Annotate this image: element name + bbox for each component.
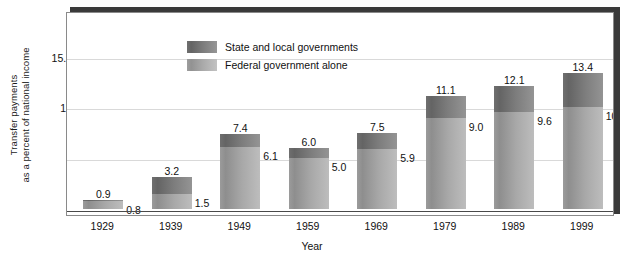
bar-segment-state-local[interactable] [152, 177, 192, 194]
bar-total-label: 11.1 [436, 84, 456, 96]
x-axis-title: Year [0, 240, 624, 252]
bar-federal-label: 0.8 [126, 204, 141, 216]
bar-segment-federal[interactable] [494, 112, 534, 209]
bar-segment-state-local[interactable] [494, 86, 534, 111]
bar-federal-label: 1.5 [195, 197, 210, 209]
bar-segment-state-local[interactable] [289, 148, 329, 158]
bar-total-label: 13.4 [573, 61, 593, 73]
bar-group[interactable] [494, 86, 534, 209]
y-axis-title: Transfer payments as a percent of nation… [8, 20, 30, 210]
bar-segment-federal[interactable] [220, 147, 260, 209]
bar-federal-label: 9.0 [469, 121, 484, 133]
legend-item[interactable]: State and local governments [187, 39, 358, 54]
plot-area: 0.90.83.21.57.46.16.05.07.55.911.19.012.… [66, 12, 614, 216]
bar-segment-federal[interactable] [152, 194, 192, 209]
legend: State and local governmentsFederal gover… [187, 39, 358, 75]
x-tick-label: 1979 [433, 220, 456, 232]
bar-federal-label: 6.1 [263, 150, 278, 162]
bar-total-label: 6.0 [301, 136, 316, 148]
bar-total-label: 3.2 [164, 165, 179, 177]
bar-federal-label: 9.6 [537, 115, 552, 127]
bar-group[interactable] [220, 134, 260, 209]
x-tick-label: 1959 [296, 220, 319, 232]
bar-federal-label: 10.0 [606, 110, 614, 122]
bar-federal-label: 5.9 [400, 152, 415, 164]
bar-segment-federal[interactable] [357, 149, 397, 209]
y-axis-title-line1: Transfer payments [8, 47, 20, 182]
bar-total-label: 7.5 [370, 121, 385, 133]
bar-segment-federal[interactable] [289, 158, 329, 209]
bar-segment-state-local[interactable] [563, 73, 603, 108]
legend-swatch-federal [187, 59, 217, 71]
bar-group[interactable] [357, 133, 397, 209]
bar-group[interactable] [152, 177, 192, 209]
bar-segment-state-local[interactable] [426, 96, 466, 117]
bar-segment-federal[interactable] [426, 118, 466, 209]
bar-segment-federal[interactable] [83, 201, 123, 209]
bar-segment-state-local[interactable] [220, 134, 260, 147]
bar-total-label: 0.9 [96, 188, 111, 200]
x-tick-label: 1949 [228, 220, 251, 232]
x-tick-label: 1969 [365, 220, 388, 232]
bar-group[interactable] [563, 73, 603, 209]
bar-total-label: 7.4 [233, 122, 248, 134]
x-tick-label: 1999 [570, 220, 593, 232]
x-tick-label: 1929 [91, 220, 114, 232]
x-tick-label: 1989 [502, 220, 525, 232]
bar-segment-state-local[interactable] [357, 133, 397, 149]
bar-federal-label: 5.0 [332, 161, 347, 173]
x-tick-label: 1939 [159, 220, 182, 232]
legend-label: Federal government alone [225, 59, 348, 71]
bar-segment-federal[interactable] [563, 107, 603, 209]
legend-item[interactable]: Federal government alone [187, 57, 358, 72]
bar-total-label: 12.1 [504, 74, 524, 86]
x-axis-line [67, 211, 613, 212]
chart-container: Transfer payments as a percent of nation… [0, 0, 624, 263]
bar-group[interactable] [83, 200, 123, 209]
legend-swatch-state [187, 41, 217, 53]
bar-group[interactable] [289, 148, 329, 209]
legend-label: State and local governments [225, 41, 358, 53]
bar-group[interactable] [426, 96, 466, 209]
bar-segment-state-local[interactable] [83, 200, 123, 201]
